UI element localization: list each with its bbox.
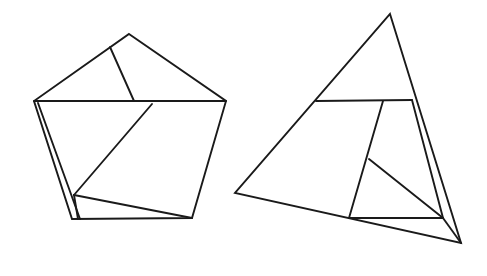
triangle-upper-crossbar	[316, 100, 412, 101]
geometry-figure	[0, 0, 487, 276]
drawing-canvas	[0, 0, 487, 276]
